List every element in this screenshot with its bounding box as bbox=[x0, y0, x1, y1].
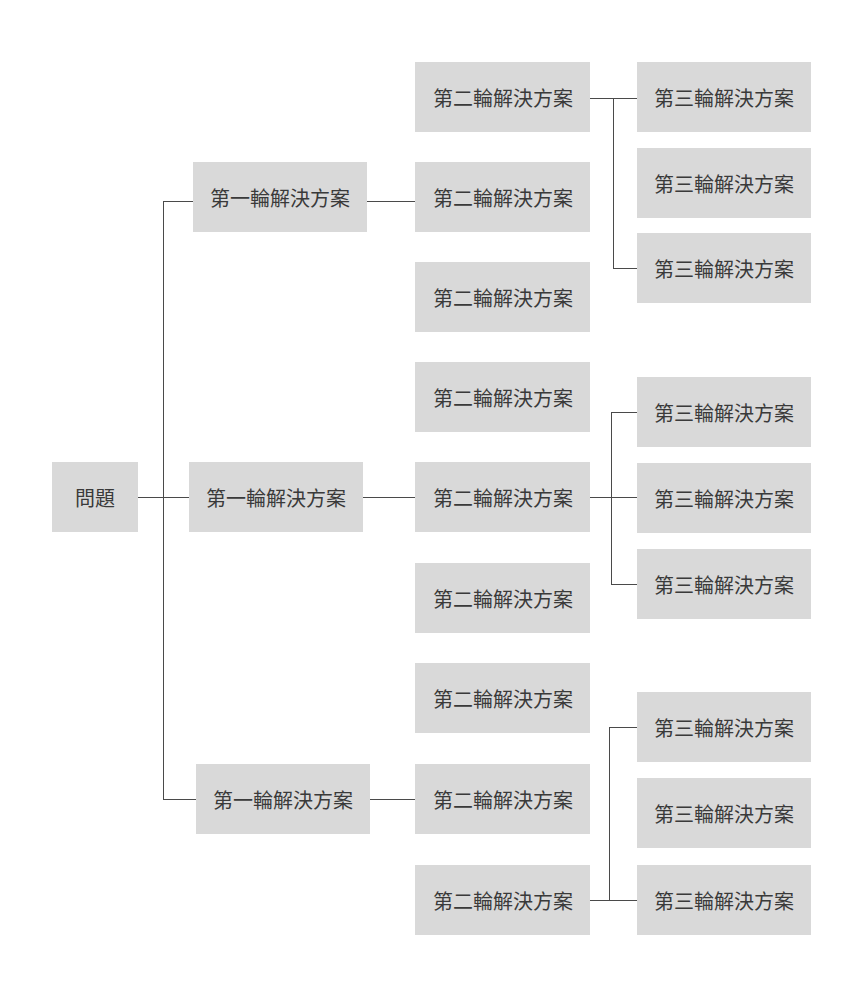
level2-node-1: 第二輪解決方案 bbox=[415, 62, 590, 132]
level3-node-8: 第三輪解決方案 bbox=[637, 778, 811, 848]
level1-node-3: 第一輪解決方案 bbox=[196, 764, 370, 834]
level3-node-4: 第三輪解決方案 bbox=[637, 377, 811, 447]
level2-node-4: 第二輪解決方案 bbox=[415, 362, 590, 432]
level3-node-3: 第三輪解決方案 bbox=[637, 233, 811, 303]
level2-node-6: 第二輪解決方案 bbox=[415, 563, 590, 633]
connector-l1-1-to-l2 bbox=[367, 201, 415, 202]
level2-node-9: 第二輪解決方案 bbox=[415, 865, 590, 935]
connector-trunk-vertical bbox=[163, 201, 164, 800]
connector-to-l3-7 bbox=[609, 727, 637, 728]
level1-node-2: 第一輪解決方案 bbox=[189, 462, 363, 532]
connector-to-l3-3 bbox=[613, 268, 637, 269]
connector-l3-top-vertical bbox=[613, 98, 614, 269]
connector-to-l3-6 bbox=[611, 584, 637, 585]
connector-l3-mid-vertical bbox=[611, 412, 612, 584]
connector-l2-9-to-l3 bbox=[590, 900, 637, 901]
level2-node-2: 第二輪解決方案 bbox=[415, 162, 590, 232]
connector-l3-bottom-vertical bbox=[609, 727, 610, 901]
level3-node-2: 第三輪解決方案 bbox=[637, 148, 811, 218]
connector-trunk-to-l1-top bbox=[163, 201, 193, 202]
logic-tree-diagram: 問題 第一輪解決方案 第一輪解決方案 第一輪解決方案 第二輪解決方案 第二輪解決… bbox=[0, 0, 853, 985]
level2-node-8: 第二輪解決方案 bbox=[415, 764, 590, 834]
level2-node-3: 第二輪解決方案 bbox=[415, 262, 590, 332]
connector-l1-2-to-l2 bbox=[363, 497, 415, 498]
level3-node-5: 第三輪解決方案 bbox=[637, 463, 811, 533]
connector-to-l3-4 bbox=[611, 412, 637, 413]
level3-node-7: 第三輪解決方案 bbox=[637, 692, 811, 762]
level3-node-1: 第三輪解決方案 bbox=[637, 62, 811, 132]
level2-node-7: 第二輪解決方案 bbox=[415, 663, 590, 733]
connector-l2-5-to-l3 bbox=[590, 497, 637, 498]
level3-node-9: 第三輪解決方案 bbox=[637, 865, 811, 935]
level3-node-6: 第三輪解決方案 bbox=[637, 549, 811, 619]
connector-l1-3-to-l2 bbox=[370, 799, 415, 800]
root-node-problem: 問題 bbox=[52, 462, 138, 532]
connector-trunk-to-l1-bottom bbox=[163, 799, 196, 800]
level1-node-1: 第一輪解決方案 bbox=[193, 162, 367, 232]
level2-node-5: 第二輪解決方案 bbox=[415, 462, 590, 532]
